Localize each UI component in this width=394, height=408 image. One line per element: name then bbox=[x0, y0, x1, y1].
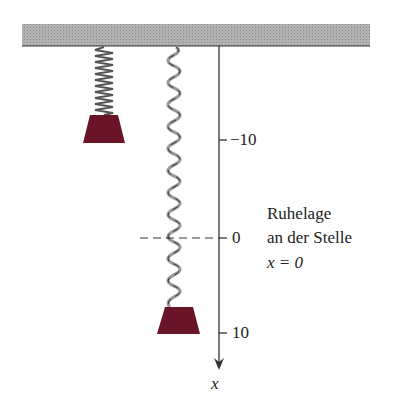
x-axis bbox=[219, 46, 227, 364]
tick-label-neg10: −10 bbox=[230, 131, 257, 148]
mass-right bbox=[157, 307, 200, 334]
spring-stretched bbox=[168, 47, 180, 314]
tick-label-10: 10 bbox=[232, 324, 249, 341]
axis-label-x: x bbox=[211, 375, 219, 392]
mass-left bbox=[83, 115, 125, 143]
spring-mass-diagram bbox=[0, 0, 394, 408]
spring-unloaded bbox=[95, 47, 113, 115]
ceiling bbox=[22, 24, 370, 46]
tick-label-0: 0 bbox=[232, 229, 241, 246]
annotation-line3: x = 0 bbox=[267, 254, 303, 271]
annotation-line1: Ruhelage bbox=[267, 205, 331, 222]
annotation-line2: an der Stelle bbox=[267, 229, 352, 246]
